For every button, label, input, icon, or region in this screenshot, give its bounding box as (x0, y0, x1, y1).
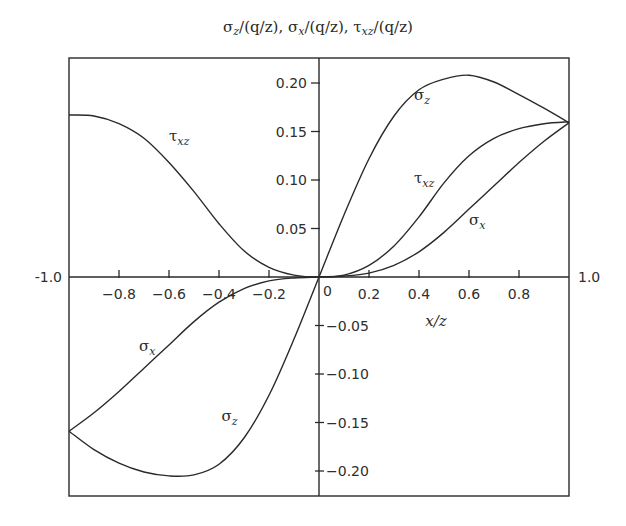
x-tick-label: 0.2 (358, 286, 380, 302)
x-tick-label: −0.4 (202, 286, 236, 302)
y-tick-label: 0.05 (276, 221, 307, 237)
x-tick-label: 0.6 (458, 286, 480, 302)
x-tick-label: −0.8 (102, 286, 136, 302)
curve-label-x: σx (139, 337, 156, 358)
x-tick-label: 0.4 (408, 286, 430, 302)
x-tick-label: −0.6 (152, 286, 186, 302)
curve-label-z: σz (414, 86, 430, 107)
curve-label-x: σx (469, 211, 486, 232)
y-tick-label: −0.05 (326, 318, 369, 334)
curve-label-xz: τxz (169, 127, 190, 148)
curve-label-xz: τxz (414, 169, 435, 190)
x-tick-label: 0.8 (508, 286, 530, 302)
x-tick-label: −0.2 (252, 286, 286, 302)
curve-label-z: σz (222, 407, 238, 428)
chart-title: σz/(q/z), σx/(q/z), τxz/(q/z) (223, 18, 413, 38)
x-axis-right-end-label: 1.0 (578, 269, 600, 285)
x-axis-left-end-label: -1.0 (35, 269, 62, 285)
y-tick-label: 0.10 (276, 172, 307, 188)
y-tick-label: −0.15 (326, 415, 369, 431)
y-tick-label: 0.20 (276, 75, 307, 91)
stress-distribution-chart: σz/(q/z), σx/(q/z), τxz/(q/z) −0.8−0.6−0… (0, 0, 626, 526)
y-tick-label: −0.10 (326, 366, 369, 382)
y-tick-label: 0.15 (276, 124, 307, 140)
x-origin-label: 0 (323, 283, 332, 299)
x-axis-title: x/z (425, 312, 447, 330)
y-tick-label: −0.20 (326, 463, 369, 479)
curve-labels: σzτxzσxτxzσxσz (139, 86, 486, 427)
